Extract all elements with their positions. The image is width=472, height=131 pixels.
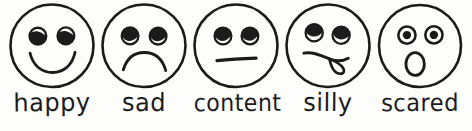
smiley-sad-face-icon: [98, 0, 191, 92]
emotion-card-content[interactable]: content: [190, 0, 282, 131]
emotion-card-silly[interactable]: silly: [282, 0, 374, 131]
emotion-card-happy[interactable]: happy: [6, 0, 98, 131]
smiley-silly-face-icon: [281, 0, 374, 93]
smiley-scared-face-icon: [374, 0, 467, 92]
emotion-label-scared: scared: [377, 88, 464, 118]
emotion-label-silly: silly: [284, 88, 373, 119]
smiley-content-face-icon: [190, 0, 282, 92]
emotion-label-content: content: [194, 88, 279, 118]
smiley-happy-face-icon: [6, 0, 99, 92]
emotion-card-scared[interactable]: scared: [374, 0, 466, 131]
faces-row: happy sad: [0, 0, 472, 131]
emotion-card-sad[interactable]: sad: [98, 0, 190, 131]
emotion-label-sad: sad: [100, 88, 189, 119]
emotion-faces-chart: happy sad: [0, 0, 472, 131]
emotion-label-happy: happy: [8, 87, 97, 118]
